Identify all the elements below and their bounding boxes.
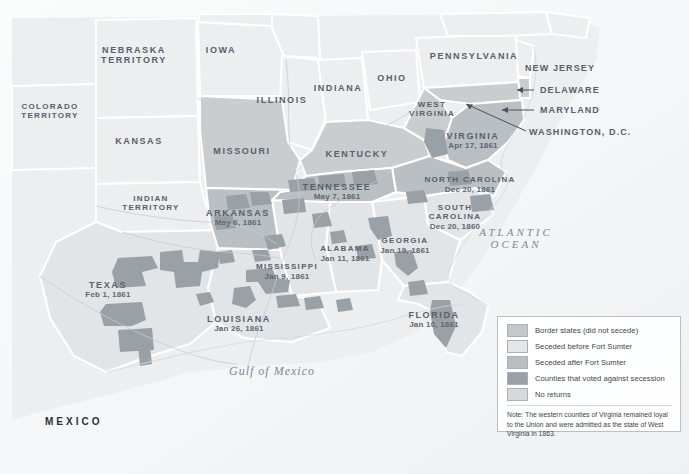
- legend-label-counties-against: Counties that voted against secession: [535, 374, 665, 383]
- map-legend: Border states (did not secede) Seceded b…: [497, 316, 681, 432]
- legend-swatch-counties-against: [507, 372, 528, 385]
- legend-item-border-states: Border states (did not secede): [507, 324, 672, 337]
- legend-label-seceded-after-sumter: Seceded after Fort Sumter: [535, 358, 626, 367]
- legend-item-seceded-before-sumter: Seceded before Fort Sumter: [507, 340, 672, 353]
- arrowhead-maryland: [502, 107, 508, 113]
- legend-item-counties-against: Counties that voted against secession: [507, 372, 672, 385]
- legend-swatch-seceded-before-sumter: [507, 340, 528, 353]
- legend-item-no-returns: No returns: [507, 388, 672, 401]
- arrowhead-delaware: [517, 87, 523, 93]
- legend-note: Note: The western counties of Virginia r…: [507, 405, 672, 439]
- legend-swatch-seceded-after-sumter: [507, 356, 528, 369]
- secession-map: NEBRASKA TERRITORY IOWA COLORADO TERRITO…: [0, 0, 689, 474]
- legend-item-seceded-after-sumter: Seceded after Fort Sumter: [507, 356, 672, 369]
- legend-swatch-border-states: [507, 324, 528, 337]
- leader-line-washington-dc: [466, 104, 526, 131]
- legend-label-border-states: Border states (did not secede): [535, 326, 638, 335]
- legend-swatch-no-returns: [507, 388, 528, 401]
- legend-label-no-returns: No returns: [535, 390, 571, 399]
- legend-label-seceded-before-sumter: Seceded before Fort Sumter: [535, 342, 632, 351]
